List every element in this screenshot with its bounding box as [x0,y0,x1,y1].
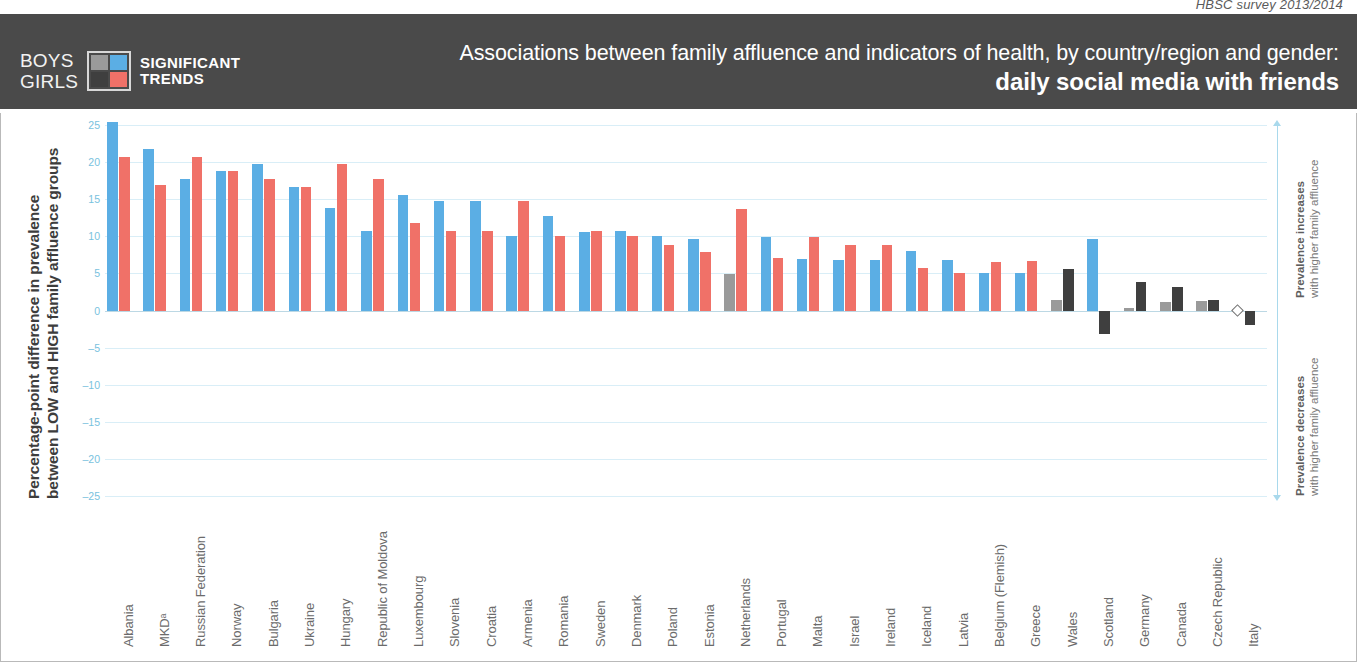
bar [470,201,481,311]
bar [180,179,191,310]
bar [761,237,772,310]
bar-group [833,118,869,503]
bar-group [615,118,651,503]
y-tick-label: –10 [60,379,100,391]
x-axis-label: Bulgaria [266,600,281,647]
bar [543,216,554,311]
bar-group [1124,118,1160,503]
swatch-boys-significant [110,55,127,70]
x-axis-label: Armenia [520,599,535,647]
x-axis-label: Norway [229,604,244,647]
bar [555,236,566,310]
bar-group [1087,118,1123,503]
bar [1027,261,1038,311]
bar [155,185,166,311]
swatch-boys-nonsignificant [91,55,108,70]
x-axis-label: Czech Republic [1210,557,1225,647]
legend-gender-labels: BOYS GIRLS [20,50,78,93]
x-axis-label: Malta [810,616,825,647]
x-axis-label: Italy [1246,624,1261,647]
bar-group [398,118,434,503]
diamond-marker-icon [1232,304,1245,317]
bar [1015,273,1026,310]
x-axis-label: Ukraine [302,603,317,647]
arrow-down-icon [1273,495,1281,501]
x-axis-label: Israel [847,616,862,647]
bar [882,245,893,310]
swatch-girls-significant [110,72,127,87]
bar-group [107,118,143,503]
bar-group [252,118,288,503]
bars-container [105,118,1267,503]
arrow-up-icon [1273,120,1281,126]
bar [216,171,227,310]
annotation-increase: Prevalence increaseswith higher family a… [1293,160,1322,299]
bar [264,179,275,310]
bar [664,245,675,310]
bar [1087,239,1098,311]
x-axis-label: Luxembourg [411,576,426,647]
y-tick-label: 10 [60,230,100,242]
x-axis-label: Canada [1174,602,1189,647]
legend-block: BOYS GIRLS SIGNIFICANT TRENDS [20,50,240,93]
legend-caption-line2: TRENDS [140,71,240,88]
chart-title: Associations between family affluence an… [279,41,1339,97]
legend-boys-label: BOYS [20,50,78,71]
bar [446,231,457,311]
y-axis-title: Percentage-point difference in prevalenc… [5,117,51,507]
bar [301,187,312,311]
x-axis-label: Croatia [484,606,499,647]
plot-area: 2520151050–5–10–15–20–25 [105,118,1267,503]
bar [337,164,348,311]
bar-group [289,118,325,503]
bar-group [470,118,506,503]
bar-group [143,118,179,503]
x-axis-label: Netherlands [738,578,753,647]
y-tick-label: 5 [60,267,100,279]
x-axis-label: Denmark [629,595,644,647]
bar-group [325,118,361,503]
x-axis-label: Poland [665,607,680,647]
bar [615,231,626,310]
bar-group [434,118,470,503]
annotation-decrease: Prevalence decreaseswith higher family a… [1293,358,1322,497]
bar [773,258,784,311]
x-axis-label: Greece [1028,605,1043,647]
x-axis-label: MKDᵃ [157,614,172,647]
legend-caption: SIGNIFICANT TRENDS [140,55,240,88]
x-axis-label: Iceland [919,606,934,647]
bar [1136,282,1147,310]
bar [289,187,300,311]
bar-group [216,118,252,503]
bar [373,179,384,310]
y-tick-label: 25 [60,119,100,131]
bar [1099,311,1110,335]
bar [361,231,372,311]
bar [652,236,663,311]
bar [591,231,602,311]
bar-group [361,118,397,503]
y-tick-label: 0 [60,305,100,317]
y-tick-label: –25 [60,490,100,502]
bar [506,236,517,310]
y-tick-label: –20 [60,453,100,465]
swatch-girls-nonsignificant [91,72,108,87]
bar [991,262,1002,311]
survey-note: HBSC survey 2013/2014 [1196,0,1343,12]
legend-caption-line1: SIGNIFICANT [140,55,240,72]
bar [736,209,747,310]
right-annotations: Prevalence increaseswith higher family a… [1273,118,1357,503]
x-axis-label: Hungary [338,599,353,647]
x-axis-label: Scotland [1101,597,1116,647]
y-tick-label: 20 [60,156,100,168]
x-axis-label: Romania [556,596,571,647]
bar [1124,308,1135,310]
x-axis-label: Slovenia [447,598,462,647]
bar [434,201,445,311]
bar-group [688,118,724,503]
x-axis-label: Germany [1137,594,1152,647]
x-axis-label: Russian Federation [193,536,208,647]
x-axis-label: Estonia [702,604,717,647]
bar-group [506,118,542,503]
bar [809,237,820,310]
